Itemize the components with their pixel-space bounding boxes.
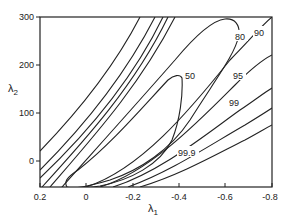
contour-label-99-9: 99.9	[178, 148, 196, 158]
x-tick-label: 0.2	[34, 192, 47, 202]
y-tick-label: 100	[19, 108, 34, 118]
contour-label-90: 90	[254, 28, 264, 38]
x-tick-label: -0.2	[125, 192, 141, 202]
contour-95-left	[40, 17, 163, 178]
contour-label-50: 50	[185, 71, 195, 81]
contour-label-95: 95	[233, 71, 243, 81]
x-axis-label: λ1	[148, 202, 159, 217]
x-tick-label: -0.4	[171, 192, 187, 202]
x-tick-label: -0.6	[217, 192, 233, 202]
contour-extra-left	[50, 17, 175, 187]
y-axis-label: λ2	[8, 82, 19, 97]
y-tick-label: 0	[29, 156, 34, 166]
x-axis	[40, 183, 272, 187]
contour-label-80: 80	[235, 32, 245, 42]
contour-80	[62, 19, 239, 188]
contour-label-99: 99	[229, 98, 239, 108]
x-tick-label: -0.8	[262, 192, 278, 202]
contour-90-right	[86, 17, 272, 187]
y-tick-label: 300	[19, 12, 34, 22]
contour-chart: 300 200 100 0 0.2 0 -0.2 -0.4 -0.6 -0.8 …	[0, 0, 285, 221]
y-tick-label: 200	[19, 60, 34, 70]
x-tick-label: 0	[83, 192, 88, 202]
contour-999-left	[40, 17, 140, 151]
